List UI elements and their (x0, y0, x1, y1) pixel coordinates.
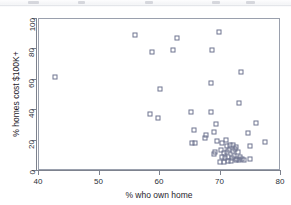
scatter-plot-figure: 020406080100 % homes cost $100K+ 4050607… (0, 0, 291, 205)
y-tick-label: 60 (28, 79, 37, 88)
data-point (246, 130, 251, 135)
data-point (147, 112, 152, 117)
data-point (253, 120, 258, 125)
data-point (242, 158, 247, 163)
data-point (158, 86, 163, 91)
data-point (223, 138, 228, 143)
data-point (52, 74, 57, 79)
x-tick-label: 50 (94, 177, 103, 186)
data-point (174, 36, 179, 41)
y-axis-title: % homes cost $100K+ (11, 51, 21, 136)
data-point (203, 136, 208, 141)
data-point (133, 33, 138, 38)
x-tick-label: 70 (215, 177, 224, 186)
plot-frame (38, 18, 280, 170)
y-tick-label: 80 (28, 48, 37, 57)
data-point (214, 122, 219, 127)
data-point (212, 152, 217, 157)
data-point (217, 30, 222, 35)
data-point (208, 109, 213, 114)
x-tick-label: 60 (155, 177, 164, 186)
clipped-top-strip (0, 0, 291, 7)
data-point (149, 49, 154, 54)
x-tick-label: 80 (276, 177, 285, 186)
x-tick (220, 171, 221, 175)
x-tick (159, 171, 160, 175)
data-point (170, 47, 175, 52)
x-tick (280, 171, 281, 175)
data-point (208, 80, 213, 85)
data-point (191, 127, 196, 132)
data-point (239, 69, 244, 74)
x-tick-label: 40 (34, 177, 43, 186)
y-tick-label: 20 (28, 140, 37, 149)
data-point (193, 140, 198, 145)
data-point (263, 139, 268, 144)
data-point (155, 116, 160, 121)
data-point (236, 100, 241, 105)
x-tick (38, 171, 39, 175)
data-point (248, 157, 253, 162)
x-tick (99, 171, 100, 175)
y-tick-label: 0 (28, 170, 37, 174)
data-point (210, 48, 215, 53)
y-tick-label: 100 (28, 18, 37, 31)
data-point (189, 109, 194, 114)
x-axis-title: % who own home (38, 190, 280, 200)
y-tick-label: 40 (28, 109, 37, 118)
plot-area (39, 19, 279, 169)
data-point (211, 129, 216, 134)
data-point (247, 144, 252, 149)
